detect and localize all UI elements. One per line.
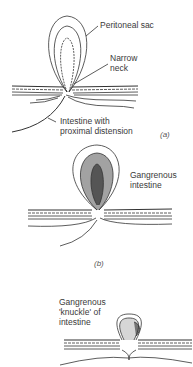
label-peritoneal-sac: Peritoneal sac	[100, 20, 154, 30]
panel-a-drawing	[12, 16, 138, 132]
panel-label-a: (a)	[160, 130, 170, 139]
label-gangrenous-knuckle: Gangrenous 'knuckle' of intestine	[59, 297, 106, 327]
label-narrow-neck: Narrow neck	[110, 53, 137, 73]
panel-label-b: (b)	[94, 259, 104, 268]
panel-b-drawing	[28, 145, 172, 246]
label-intestine-distension: Intestine with proximal distension	[60, 116, 133, 136]
label-gangrenous-intestine: Gangrenous intestine	[130, 170, 177, 190]
